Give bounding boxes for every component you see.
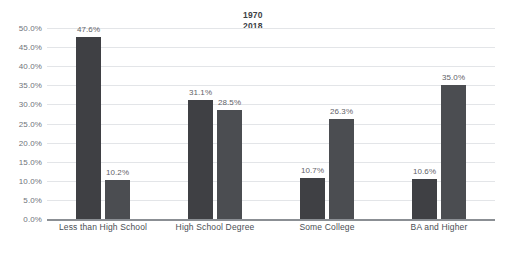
bar-2018: 35.0% xyxy=(441,85,466,219)
bar-value-label: 10.7% xyxy=(301,166,324,175)
bar-2018: 28.5% xyxy=(217,110,242,219)
bar-group: 47.6%10.2% xyxy=(76,28,130,219)
bar-value-label: 35.0% xyxy=(442,73,465,82)
y-axis-tick-label: 50.0% xyxy=(19,24,42,33)
x-axis-category-label: Some College xyxy=(299,222,354,232)
bar-2018: 10.2% xyxy=(105,180,130,219)
y-axis-tick-label: 15.0% xyxy=(19,157,42,166)
bar-value-label: 28.5% xyxy=(218,98,241,107)
y-axis-tick-label: 45.0% xyxy=(19,43,42,52)
bar-2018: 26.3% xyxy=(329,119,354,219)
bar-value-label: 47.6% xyxy=(77,25,100,34)
y-axis-tick-label: 40.0% xyxy=(19,62,42,71)
y-axis-tick-label: 20.0% xyxy=(19,138,42,147)
x-axis-category-label: BA and Higher xyxy=(411,222,468,232)
bar-1970: 31.1% xyxy=(188,100,213,219)
y-axis-tick-label: 25.0% xyxy=(19,119,42,128)
x-axis-category-label: High School Degree xyxy=(176,222,255,232)
y-axis-tick-label: 30.0% xyxy=(19,100,42,109)
bar-group: 10.6%35.0% xyxy=(412,28,466,219)
bar-chart: 1970 2018 0.0%5.0%10.0%15.0%20.0%25.0%30… xyxy=(0,0,521,255)
bar-value-label: 10.2% xyxy=(106,168,129,177)
y-axis-tick-label: 0.0% xyxy=(23,215,42,224)
legend-entry-1970: 1970 xyxy=(243,10,263,21)
x-axis-category-label: Less than High School xyxy=(59,222,147,232)
y-axis-tick-label: 35.0% xyxy=(19,81,42,90)
bar-1970: 10.6% xyxy=(412,179,437,219)
y-axis-tick-label: 5.0% xyxy=(23,195,42,204)
y-axis-tick-label: 10.0% xyxy=(19,176,42,185)
axis-baseline xyxy=(47,219,495,221)
bar-value-label: 10.6% xyxy=(413,167,436,176)
bar-value-label: 26.3% xyxy=(330,107,353,116)
bar-1970: 10.7% xyxy=(300,178,325,219)
bar-group: 10.7%26.3% xyxy=(300,28,354,219)
plot-area: 0.0%5.0%10.0%15.0%20.0%25.0%30.0%35.0%40… xyxy=(47,28,495,219)
bar-1970: 47.6% xyxy=(76,37,101,219)
bar-group: 31.1%28.5% xyxy=(188,28,242,219)
bar-value-label: 31.1% xyxy=(189,88,212,97)
